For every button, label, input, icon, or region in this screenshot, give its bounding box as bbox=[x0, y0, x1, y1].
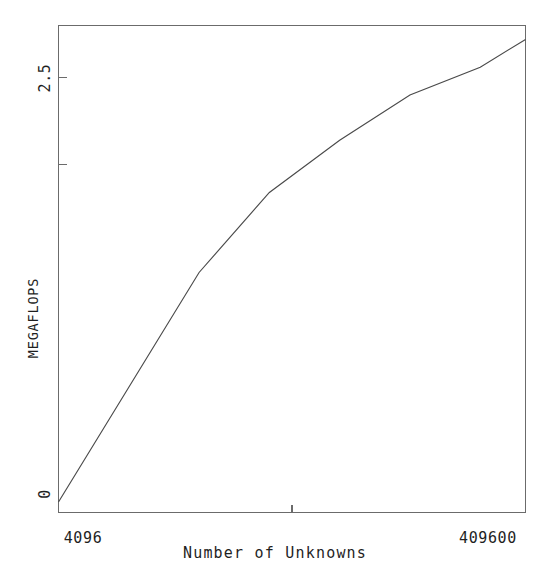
data-series-megaflops bbox=[59, 39, 526, 502]
y-tick-label-upper: 2.5 bbox=[36, 64, 54, 93]
x-tick-label-right: 409600 bbox=[459, 529, 517, 547]
plot-frame bbox=[59, 26, 526, 513]
y-tick-label-lower: 0 bbox=[36, 489, 54, 499]
chart-figure: 2.5 0 MEGAFLOPS 4096 409600 Number of Un… bbox=[0, 0, 553, 575]
line-chart-svg: 2.5 0 MEGAFLOPS 4096 409600 Number of Un… bbox=[0, 0, 553, 575]
x-axis-title: Number of Unknowns bbox=[183, 544, 367, 562]
x-tick-label-left: 4096 bbox=[64, 529, 103, 547]
y-axis-title: MEGAFLOPS bbox=[25, 278, 41, 358]
